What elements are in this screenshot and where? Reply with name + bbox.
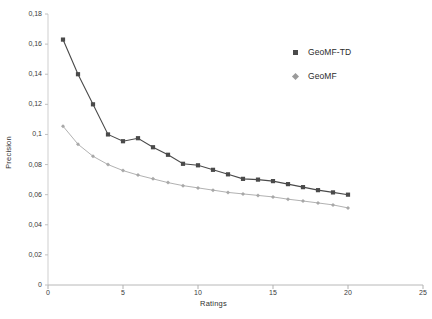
x-tick-label: 10 xyxy=(186,289,210,296)
data-point-marker-diamond xyxy=(196,186,200,190)
y-tick-label: 0,08 xyxy=(10,161,42,168)
y-tick-label: 0,02 xyxy=(10,251,42,258)
data-point-marker-diamond xyxy=(151,177,155,181)
data-point-marker-square xyxy=(181,162,185,166)
x-tick-label: 20 xyxy=(336,289,360,296)
x-tick-label: 25 xyxy=(411,289,432,296)
legend-item-geomf[interactable]: GeoMF xyxy=(288,71,337,81)
legend-item-geomf-td[interactable]: GeoMF-TD xyxy=(288,47,351,57)
data-point-marker-square xyxy=(271,179,275,183)
data-point-marker-square xyxy=(76,72,80,76)
data-point-marker-square xyxy=(61,37,65,41)
data-point-marker-square xyxy=(136,136,140,140)
data-point-marker-diamond xyxy=(136,173,140,177)
data-point-marker-square xyxy=(166,153,170,157)
y-tick-label: 0,04 xyxy=(10,221,42,228)
data-point-marker-square xyxy=(301,185,305,189)
data-point-marker-square xyxy=(256,178,260,182)
legend-marker-square xyxy=(288,48,302,57)
data-point-marker-diamond xyxy=(226,190,230,194)
data-point-marker-square xyxy=(196,163,200,167)
data-point-marker-square xyxy=(331,190,335,194)
data-point-marker-diamond xyxy=(106,163,110,167)
legend-label: GeoMF xyxy=(308,71,337,81)
data-point-marker-square xyxy=(226,172,230,176)
legend-label: GeoMF-TD xyxy=(308,47,351,57)
data-point-marker-diamond xyxy=(121,169,125,173)
data-point-marker-diamond xyxy=(286,197,290,201)
data-point-marker-square xyxy=(151,145,155,149)
data-point-marker-diamond xyxy=(211,188,215,192)
data-point-marker-diamond xyxy=(256,193,260,197)
y-tick-label: 0,1 xyxy=(10,130,42,137)
data-point-marker-diamond xyxy=(271,195,275,199)
x-tick-marks xyxy=(48,285,423,289)
data-point-marker-square xyxy=(241,177,245,181)
data-point-marker-diamond xyxy=(301,199,305,203)
data-point-marker-diamond xyxy=(241,192,245,196)
series-line xyxy=(63,40,348,195)
data-point-marker-square xyxy=(121,139,125,143)
data-series-layer xyxy=(61,37,350,209)
data-point-marker-square xyxy=(91,102,95,106)
data-point-marker-diamond xyxy=(181,184,185,188)
data-point-marker-square xyxy=(316,188,320,192)
x-tick-label: 0 xyxy=(36,289,60,296)
y-tick-label: 0,16 xyxy=(10,40,42,47)
data-point-marker-square xyxy=(211,168,215,172)
data-point-marker-square xyxy=(346,193,350,197)
data-point-marker-diamond xyxy=(346,206,350,210)
legend-marker-diamond xyxy=(288,72,302,81)
x-tick-label: 15 xyxy=(261,289,285,296)
y-tick-label: 0,06 xyxy=(10,191,42,198)
data-point-marker-square xyxy=(286,182,290,186)
y-tick-label: 0,14 xyxy=(10,70,42,77)
data-point-marker-diamond xyxy=(316,201,320,205)
data-point-marker-square xyxy=(106,132,110,136)
x-axis-title: Ratings xyxy=(0,299,427,308)
x-tick-label: 5 xyxy=(111,289,135,296)
y-tick-label: 0 xyxy=(10,281,42,288)
series-geomf-td xyxy=(61,37,350,196)
data-point-marker-diamond xyxy=(166,181,170,185)
axis-lines xyxy=(48,14,423,285)
y-tick-label: 0,12 xyxy=(10,100,42,107)
data-point-marker-diamond xyxy=(331,203,335,207)
y-tick-label: 0,18 xyxy=(10,10,42,17)
